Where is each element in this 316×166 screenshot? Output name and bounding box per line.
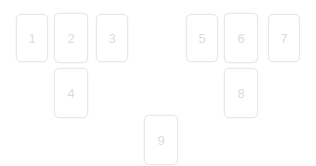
card-label: 2	[67, 32, 74, 45]
card-7[interactable]: 7	[268, 14, 300, 62]
card-label: 1	[28, 32, 35, 45]
card-label: 5	[198, 32, 205, 45]
card-2[interactable]: 2	[54, 13, 88, 63]
card-5[interactable]: 5	[186, 14, 218, 62]
card-4[interactable]: 4	[54, 68, 88, 118]
card-3[interactable]: 3	[96, 14, 128, 62]
card-label: 6	[237, 32, 244, 45]
card-1[interactable]: 1	[16, 14, 48, 62]
card-label: 3	[108, 32, 115, 45]
card-label: 4	[67, 87, 74, 100]
card-board: 123456789	[0, 0, 316, 166]
card-label: 7	[280, 32, 287, 45]
card-6[interactable]: 6	[224, 13, 258, 63]
card-8[interactable]: 8	[224, 68, 258, 118]
card-9[interactable]: 9	[144, 115, 178, 165]
card-label: 9	[157, 134, 164, 147]
card-label: 8	[237, 87, 244, 100]
